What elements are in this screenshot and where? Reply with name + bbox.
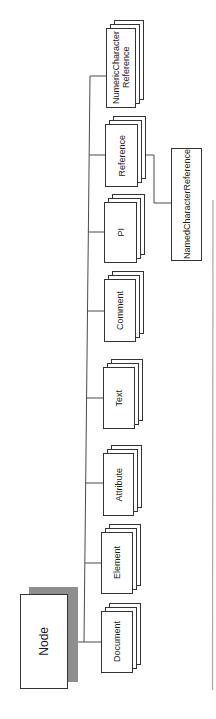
class-hierarchy-diagram: Node Document Element Attribute Text — [0, 0, 216, 719]
box-numeric-character-reference: NumericCharacter Reference — [106, 28, 136, 108]
attribute-label: Attribute — [114, 468, 124, 502]
box-text: Text — [103, 367, 135, 429]
named-character-reference-label: NamedCharacterReference — [182, 149, 192, 259]
trunk-line — [84, 76, 90, 642]
box-attribute: Attribute — [103, 453, 134, 516]
node-box-root: Node — [20, 594, 68, 689]
element-label: Element — [112, 546, 122, 579]
page-edge-line — [213, 200, 214, 690]
text-label: Text — [114, 390, 124, 407]
box-reference: Reference — [105, 124, 138, 187]
box-pi: PI — [104, 202, 137, 263]
comment-label: Comment — [115, 291, 125, 330]
node-label: Node — [38, 627, 50, 656]
label-line-1: NumericCharacter — [111, 31, 121, 104]
numeric-character-reference-label: NumericCharacter Reference — [111, 31, 131, 104]
box-element: Element — [101, 532, 133, 594]
box-document: Document — [101, 611, 133, 673]
box-named-character-reference: NamedCharacterReference — [171, 148, 202, 261]
box-comment: Comment — [104, 279, 136, 342]
document-label: Document — [112, 621, 122, 662]
pi-label: PI — [116, 228, 126, 237]
label-line-2: Reference — [121, 31, 131, 104]
reference-label: Reference — [117, 135, 127, 177]
